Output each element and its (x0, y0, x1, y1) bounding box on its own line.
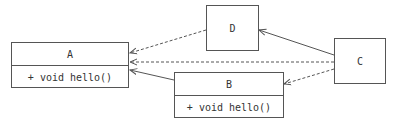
edge-b-to-a (130, 70, 174, 80)
class-b[interactable]: B + void hello() (174, 72, 284, 118)
class-b-name: B (175, 73, 283, 96)
class-c-name: C (357, 56, 363, 67)
edge-c-to-b (284, 69, 334, 84)
edge-c-to-d (259, 30, 334, 55)
class-a-name: A (12, 43, 128, 66)
diagram-canvas: A + void hello() B + void hello() C D (0, 0, 399, 124)
class-c[interactable]: C (334, 38, 386, 84)
edge-d-to-a (130, 30, 206, 53)
class-a[interactable]: A + void hello() (11, 42, 129, 88)
class-d[interactable]: D (206, 5, 259, 51)
class-a-method: + void hello() (12, 66, 128, 88)
class-b-method: + void hello() (175, 96, 283, 118)
class-d-name: D (229, 23, 235, 34)
